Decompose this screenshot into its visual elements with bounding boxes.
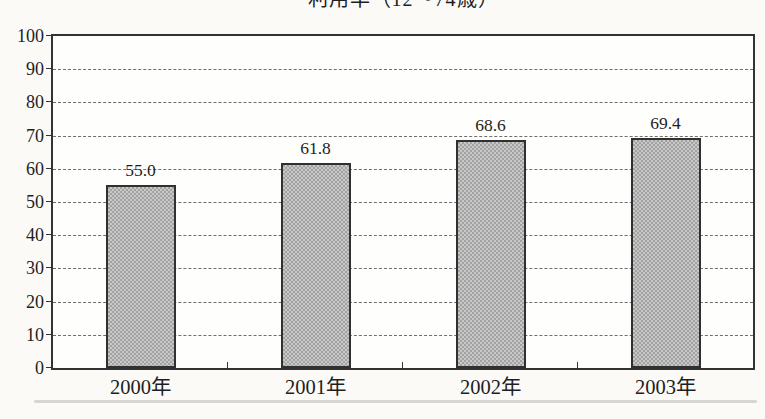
y-axis-tick — [46, 334, 52, 335]
y-axis-tick — [46, 101, 52, 102]
bar — [456, 140, 526, 368]
y-axis-tick-label: 70 — [0, 125, 44, 147]
x-axis-category-label: 2001年 — [246, 375, 386, 399]
page-scan-artifact — [34, 400, 757, 403]
x-axis-category-label: 2003年 — [596, 375, 736, 399]
y-axis-tick — [46, 234, 52, 235]
gridline — [53, 69, 753, 70]
y-axis-tick — [46, 367, 52, 368]
y-axis-tick-label: 0 — [0, 357, 44, 379]
y-axis-tick-label: 10 — [0, 324, 44, 346]
bar — [631, 138, 701, 368]
y-axis-tick — [46, 301, 52, 302]
y-axis-tick-label: 80 — [0, 91, 44, 113]
y-axis-tick — [46, 68, 52, 69]
bar — [281, 163, 351, 368]
y-axis-tick — [46, 168, 52, 169]
y-axis-tick — [46, 35, 52, 36]
x-axis-tick — [577, 362, 578, 368]
y-axis-tick-label: 60 — [0, 158, 44, 180]
y-axis-tick-label: 20 — [0, 291, 44, 313]
y-axis-tick-label: 30 — [0, 257, 44, 279]
bar-chart: 利用率（12～74歳） 55.061.868.669.4 01020304050… — [0, 0, 765, 419]
chart-title: 利用率（12～74歳） — [52, 0, 754, 11]
x-axis-tick — [227, 362, 228, 368]
gridline — [53, 136, 753, 137]
y-axis-tick — [46, 135, 52, 136]
x-axis-category-label: 2002年 — [421, 375, 561, 399]
x-axis-tick — [402, 362, 403, 368]
bar-value-label: 68.6 — [431, 115, 551, 135]
y-axis-tick-label: 90 — [0, 58, 44, 80]
x-axis-category-label: 2000年 — [71, 375, 211, 399]
bar — [106, 185, 176, 368]
y-axis-tick — [46, 201, 52, 202]
bar-value-label: 61.8 — [256, 138, 376, 158]
plot-area: 55.061.868.669.4 — [51, 34, 755, 370]
y-axis-tick — [46, 267, 52, 268]
y-axis-tick-label: 50 — [0, 191, 44, 213]
gridline — [53, 102, 753, 103]
bar-value-label: 55.0 — [81, 160, 201, 180]
y-axis-tick-label: 40 — [0, 224, 44, 246]
bar-value-label: 69.4 — [606, 113, 726, 133]
y-axis-tick-label: 100 — [0, 25, 44, 47]
